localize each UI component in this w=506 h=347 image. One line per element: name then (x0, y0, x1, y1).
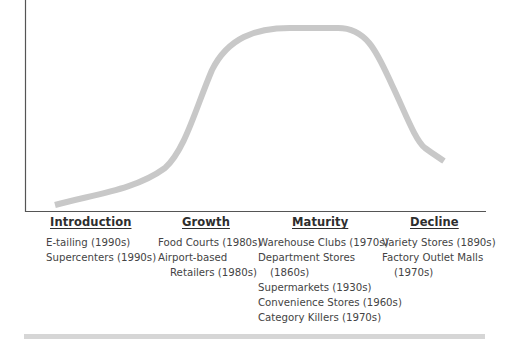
bottom-divider-bar (24, 334, 485, 339)
stage-decline: Decline Variety Stores (1890s) Factory O… (382, 215, 502, 280)
stage-title: Decline (382, 215, 502, 229)
stage-item: Variety Stores (1890s) (382, 235, 502, 250)
stage-growth: Growth Food Courts (1980s) Airport-based… (158, 215, 258, 280)
stage-item: Airport-basedRetailers (1980s) (158, 250, 258, 280)
stage-item: Factory Outlet Malls(1970s) (382, 250, 502, 280)
stage-item: Supercenters (1990s) (46, 250, 176, 265)
stage-item: Department Stores(1860s) (258, 250, 398, 280)
retail-life-cycle-diagram: Introduction E-tailing (1990s) Supercent… (0, 0, 506, 347)
stage-item: Supermarkets (1930s) (258, 280, 398, 295)
life-cycle-curve-chart (0, 0, 506, 215)
stage-item: Convenience Stores (1960s) (258, 295, 398, 310)
life-cycle-curve (55, 28, 444, 205)
stage-maturity: Maturity Warehouse Clubs (1970s) Departm… (258, 215, 398, 325)
stage-item: Warehouse Clubs (1970s) (258, 235, 398, 250)
stage-item: Category Killers (1970s) (258, 310, 398, 325)
stage-item: Food Courts (1980s) (158, 235, 258, 250)
stage-title: Introduction (46, 215, 176, 229)
stage-item: E-tailing (1990s) (46, 235, 176, 250)
stage-introduction: Introduction E-tailing (1990s) Supercent… (46, 215, 176, 265)
stage-title: Growth (158, 215, 258, 229)
stage-title: Maturity (258, 215, 398, 229)
